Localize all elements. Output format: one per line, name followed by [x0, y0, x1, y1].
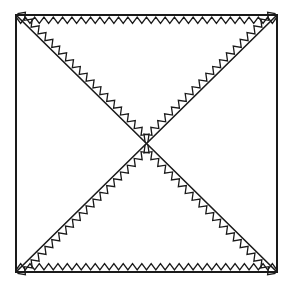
- figure-container: A square divided by both diagonals into …: [0, 0, 296, 293]
- figure-drawing: [0, 0, 296, 293]
